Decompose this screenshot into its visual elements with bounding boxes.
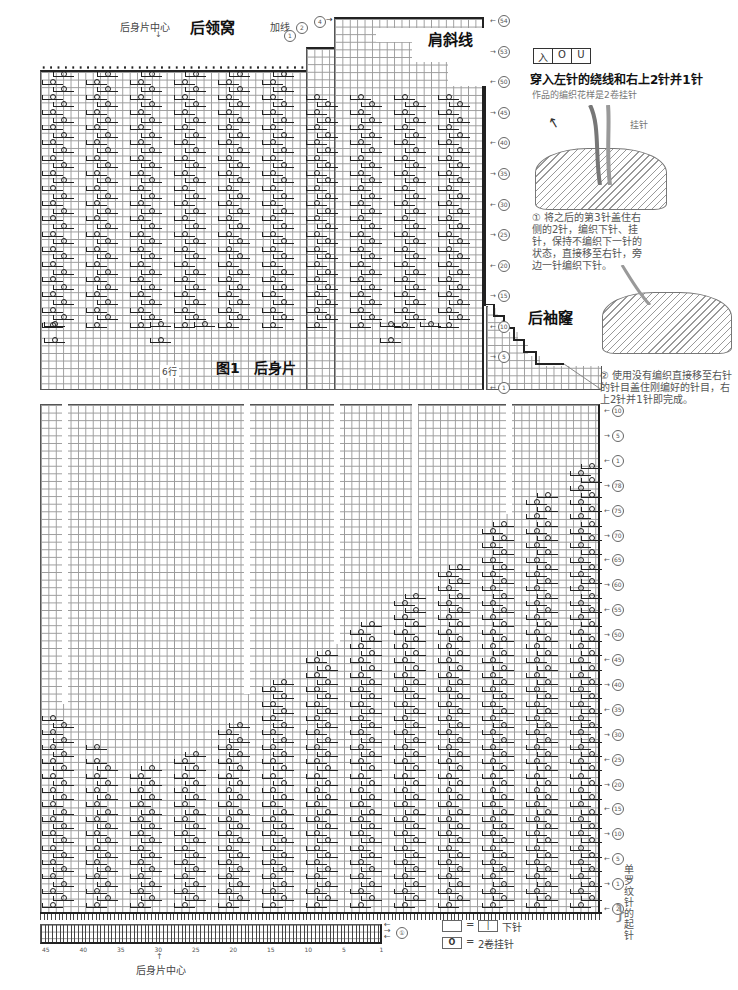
yarn-over-symbol-icon (317, 300, 338, 306)
yarn-over-symbol-icon (526, 687, 547, 693)
row-arrow-icon: → (604, 731, 610, 739)
yarn-over-symbol-icon (394, 817, 415, 823)
yarn-over-symbol-icon (317, 709, 338, 715)
row-arrow-icon: ← (604, 606, 610, 614)
row-number: 30 (498, 199, 510, 211)
yarn-over-symbol-icon (394, 171, 415, 177)
yarn-over-symbol-icon (185, 224, 206, 230)
yarn-over-symbol-icon (361, 315, 382, 321)
yarn-over-symbol-icon (97, 163, 118, 169)
yarn-over-symbol-icon (262, 125, 283, 131)
row-arrow-icon: ← (604, 457, 610, 465)
row-number: 45 (498, 107, 510, 119)
yarn-over-symbol-icon (438, 601, 459, 607)
yarn-over-symbol-icon (229, 896, 250, 902)
yarn-over-symbol-icon (394, 759, 415, 765)
mark-1: 1 (284, 30, 296, 42)
yarn-over-symbol-icon (141, 178, 162, 184)
row-marker: ←30 (490, 199, 510, 211)
yarn-over-symbol-icon (306, 262, 327, 268)
yarn-over-symbol-icon (317, 194, 338, 200)
yarn-over-symbol-icon (185, 882, 206, 888)
yarn-over-symbol-icon (438, 889, 459, 895)
yarn-over-symbol-icon (438, 730, 459, 736)
yarn-over-symbol-icon (262, 216, 283, 222)
yarn-over-symbol-icon (537, 594, 558, 600)
yarn-over-symbol-icon (42, 745, 63, 751)
yarn-over-symbol-icon (53, 118, 74, 124)
yarn-over-symbol-icon (53, 766, 74, 772)
yarn-over-symbol-icon (394, 308, 415, 314)
yarn-over-symbol-icon (405, 254, 426, 260)
yarn-over-symbol-icon (570, 486, 591, 492)
yarn-over-symbol-icon (273, 315, 294, 321)
yarn-over-symbol-icon (130, 323, 151, 329)
yarn-over-symbol-icon (174, 110, 195, 116)
technique-symbol-row: 入 O U (533, 48, 591, 64)
yarn-over-symbol-icon (317, 285, 338, 291)
yarn-over-symbol-icon (449, 824, 470, 830)
yarn-over-symbol-icon (438, 774, 459, 780)
legend-empty-box (442, 920, 462, 932)
yarn-over-symbol-icon (306, 903, 327, 909)
yarn-over-symbol-icon (438, 846, 459, 852)
row-arrow-icon: → (604, 631, 610, 639)
yarn-over-symbol-icon (174, 201, 195, 207)
row-number: 5 (612, 853, 624, 865)
yarn-over-symbol-icon (537, 565, 558, 571)
row-marker: →20 (604, 779, 624, 791)
yarn-over-symbol-icon (42, 277, 63, 283)
yarn-over-symbol-icon (273, 867, 294, 873)
row-number: 25 (498, 229, 510, 241)
yarn-over-symbol-icon (185, 810, 206, 816)
yarn-over-symbol-icon (438, 262, 459, 268)
yarn-over-symbol-icon (493, 680, 514, 686)
yarn-over-symbol-icon (405, 209, 426, 215)
x-tick: 5 (342, 946, 346, 953)
yarn-over-symbol-icon (306, 860, 327, 866)
yarn-over-symbol-icon (130, 874, 151, 880)
yarn-over-symbol-icon (570, 658, 591, 664)
yarn-over-symbol-icon (229, 178, 250, 184)
yarn-over-symbol-icon (438, 615, 459, 621)
legend-equals-1: = (466, 919, 474, 930)
yarn-over-symbol-icon (482, 802, 503, 808)
row-number: 55 (612, 604, 624, 616)
yarn-over-symbol-icon (438, 186, 459, 192)
row-number: 10 (612, 828, 624, 840)
row-arrow-icon: ← (604, 756, 610, 764)
yarn-over-symbol-icon (438, 586, 459, 592)
column-gap-1 (62, 404, 68, 704)
yarn-over-symbol-icon (273, 300, 294, 306)
yarn-over-symbol-icon (526, 572, 547, 578)
yarn-over-symbol-icon (394, 687, 415, 693)
yarn-over-symbol-icon (306, 171, 327, 177)
yarn-over-symbol-icon (86, 874, 107, 880)
row-marker: ←54 (490, 15, 510, 27)
legend-yo-symbol: O (442, 937, 462, 949)
yarn-over-symbol-icon (570, 543, 591, 549)
yarn-over-symbol-icon (141, 118, 162, 124)
yarn-over-symbol-icon (449, 270, 470, 276)
yarn-over-symbol-icon (405, 594, 426, 600)
yarn-over-symbol-icon (526, 774, 547, 780)
yarn-over-symbol-icon (306, 846, 327, 852)
yarn-over-symbol-icon (262, 903, 283, 909)
yarn-over-symbol-icon (350, 831, 371, 837)
yarn-over-symbol-icon (317, 651, 338, 657)
yarn-over-symbol-icon (438, 292, 459, 298)
row-marker: ←40 (490, 137, 510, 149)
yarn-over-symbol-icon (42, 889, 63, 895)
row-number: 15 (612, 803, 624, 815)
mark-2: 2 (296, 22, 308, 34)
yarn-over-symbol-icon (526, 874, 547, 880)
yarn-over-symbol-icon (537, 622, 558, 628)
yarn-over-symbol-icon (86, 186, 107, 192)
yarn-over-symbol-icon (306, 817, 327, 823)
yarn-over-symbol-icon (86, 788, 107, 794)
yarn-over-symbol-icon (449, 565, 470, 571)
row-marker: →10 (604, 828, 624, 840)
yarn-over-symbol-icon (526, 658, 547, 664)
yarn-over-symbol-icon (97, 270, 118, 276)
yarn-over-symbol-icon (449, 163, 470, 169)
